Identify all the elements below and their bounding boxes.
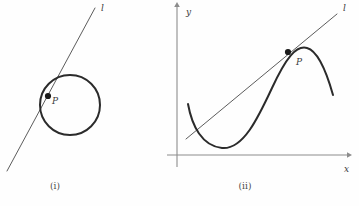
caption-ii: (ii) <box>239 181 252 191</box>
tangent-line-i <box>7 8 95 171</box>
circle-shape <box>40 75 100 135</box>
panel-ii-group: l P x y (ii) <box>167 2 352 191</box>
y-axis-arrowhead <box>174 2 180 7</box>
tangent-line-ii <box>186 14 337 139</box>
point-label-ii: P <box>295 57 303 67</box>
caption-i: (i) <box>50 181 60 191</box>
x-axis-label: x <box>344 164 349 174</box>
panel-i-group: l P (i) <box>7 3 104 191</box>
tangent-point-dot-ii <box>285 49 291 55</box>
tangent-label-ii: l <box>343 3 346 13</box>
y-axis-label: y <box>185 7 192 17</box>
figure-container: l P (i) l P x y (ii) <box>0 0 359 206</box>
x-axis-arrowhead <box>347 152 352 158</box>
cubic-curve-shape <box>188 48 333 149</box>
geometry-figure: l P (i) l P x y (ii) <box>0 0 359 206</box>
tangent-point-dot-i <box>45 93 51 99</box>
point-label-i: P <box>51 96 59 106</box>
tangent-label-i: l <box>101 3 104 13</box>
